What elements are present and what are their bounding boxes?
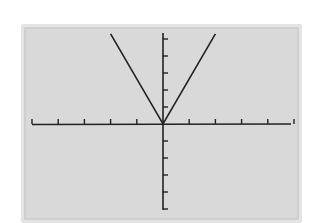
x-axis <box>32 124 291 125</box>
graph-plot <box>0 0 313 223</box>
